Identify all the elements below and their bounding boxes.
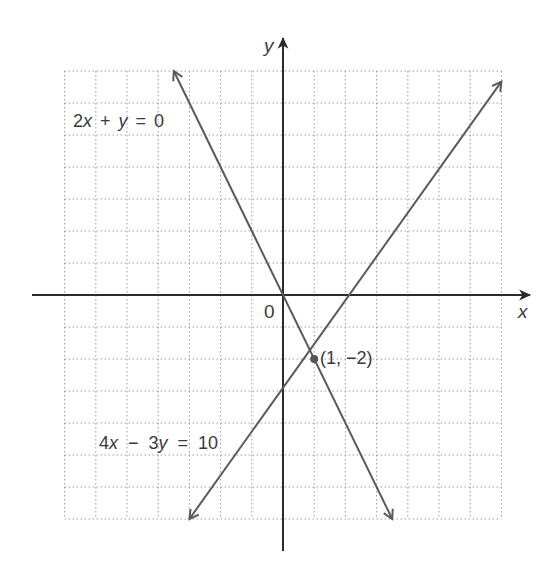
eq1-eq: = bbox=[136, 111, 147, 131]
chart-container: y x 0 2x+y=0 4x−3y=10 (1, −2) bbox=[0, 0, 558, 569]
x-axis-label: x bbox=[517, 301, 529, 322]
intersection-label: (1, −2) bbox=[320, 348, 373, 368]
eq1-op: + bbox=[100, 111, 111, 131]
eq1-coef: 2 bbox=[73, 111, 83, 131]
equation-label-1: 2x+y=0 bbox=[73, 111, 164, 131]
eq2-x: x bbox=[108, 433, 119, 453]
intersection-point-marker bbox=[310, 355, 318, 363]
eq1-y: y bbox=[117, 111, 129, 131]
eq2-op: − bbox=[128, 433, 139, 453]
eq2-coef-b: 3 bbox=[149, 433, 159, 453]
eq1-x: x bbox=[82, 111, 93, 131]
equation-label-2: 4x−3y=10 bbox=[99, 433, 218, 453]
eq2-eq: = bbox=[178, 433, 189, 453]
coordinate-plane: y x 0 2x+y=0 4x−3y=10 (1, −2) bbox=[0, 0, 558, 569]
eq1-rhs: 0 bbox=[154, 111, 164, 131]
y-axis-label: y bbox=[262, 35, 275, 56]
eq2-y: y bbox=[157, 433, 169, 453]
origin-label: 0 bbox=[264, 301, 275, 322]
eq2-rhs: 10 bbox=[198, 433, 218, 453]
eq2-coef-a: 4 bbox=[99, 433, 109, 453]
